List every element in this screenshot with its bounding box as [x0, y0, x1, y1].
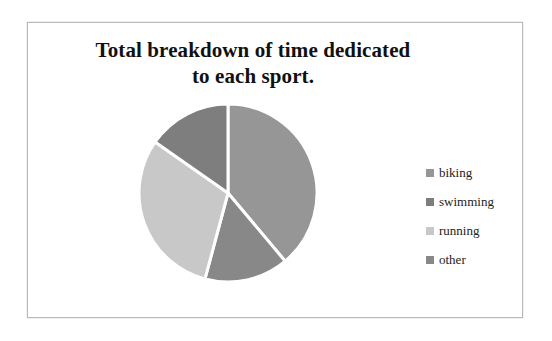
legend-swatch-icon: [426, 198, 434, 206]
pie-slices-group: [139, 104, 317, 282]
legend-label: other: [439, 253, 466, 266]
chart-legend: biking swimming running other: [426, 158, 522, 274]
legend-item-biking[interactable]: biking: [426, 158, 522, 187]
legend-swatch-icon: [426, 256, 434, 264]
pie-chart-svg: [138, 103, 318, 283]
legend-swatch-icon: [426, 227, 434, 235]
chart-title: Total breakdown of time dedicated to eac…: [88, 37, 418, 89]
legend-item-running[interactable]: running: [426, 216, 522, 245]
legend-label: swimming: [439, 195, 494, 208]
legend-item-swimming[interactable]: swimming: [426, 187, 522, 216]
pie-chart[interactable]: [138, 103, 318, 283]
chart-frame: Total breakdown of time dedicated to eac…: [27, 22, 523, 318]
legend-label: biking: [439, 166, 472, 179]
legend-item-other[interactable]: other: [426, 245, 522, 274]
legend-label: running: [439, 224, 479, 237]
legend-swatch-icon: [426, 169, 434, 177]
